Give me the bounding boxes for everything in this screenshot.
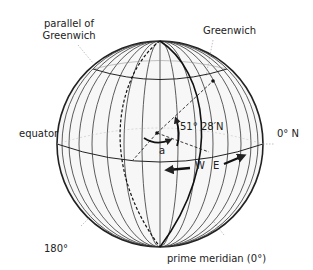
east-label: E	[213, 160, 219, 172]
parallel-of-greenwich-line2: Greenwich	[34, 30, 104, 42]
earth-center-dot	[155, 131, 159, 135]
equator-label: equator	[19, 128, 58, 140]
meridian-180-label: 180°	[44, 243, 68, 255]
parallel-of-greenwich-line1: parallel of	[34, 18, 104, 30]
angle-a-label: a	[159, 145, 165, 157]
greenwich-dot	[211, 79, 215, 83]
zero-n-label: 0° N	[277, 128, 299, 140]
west-label: W	[195, 160, 205, 172]
greenwich-label: Greenwich	[203, 25, 256, 37]
parallel-of-greenwich-label: parallel of Greenwich	[34, 18, 104, 42]
latitude-label: 51° 28′N	[180, 121, 223, 133]
prime-meridian-label: prime meridian (0°)	[167, 253, 266, 265]
